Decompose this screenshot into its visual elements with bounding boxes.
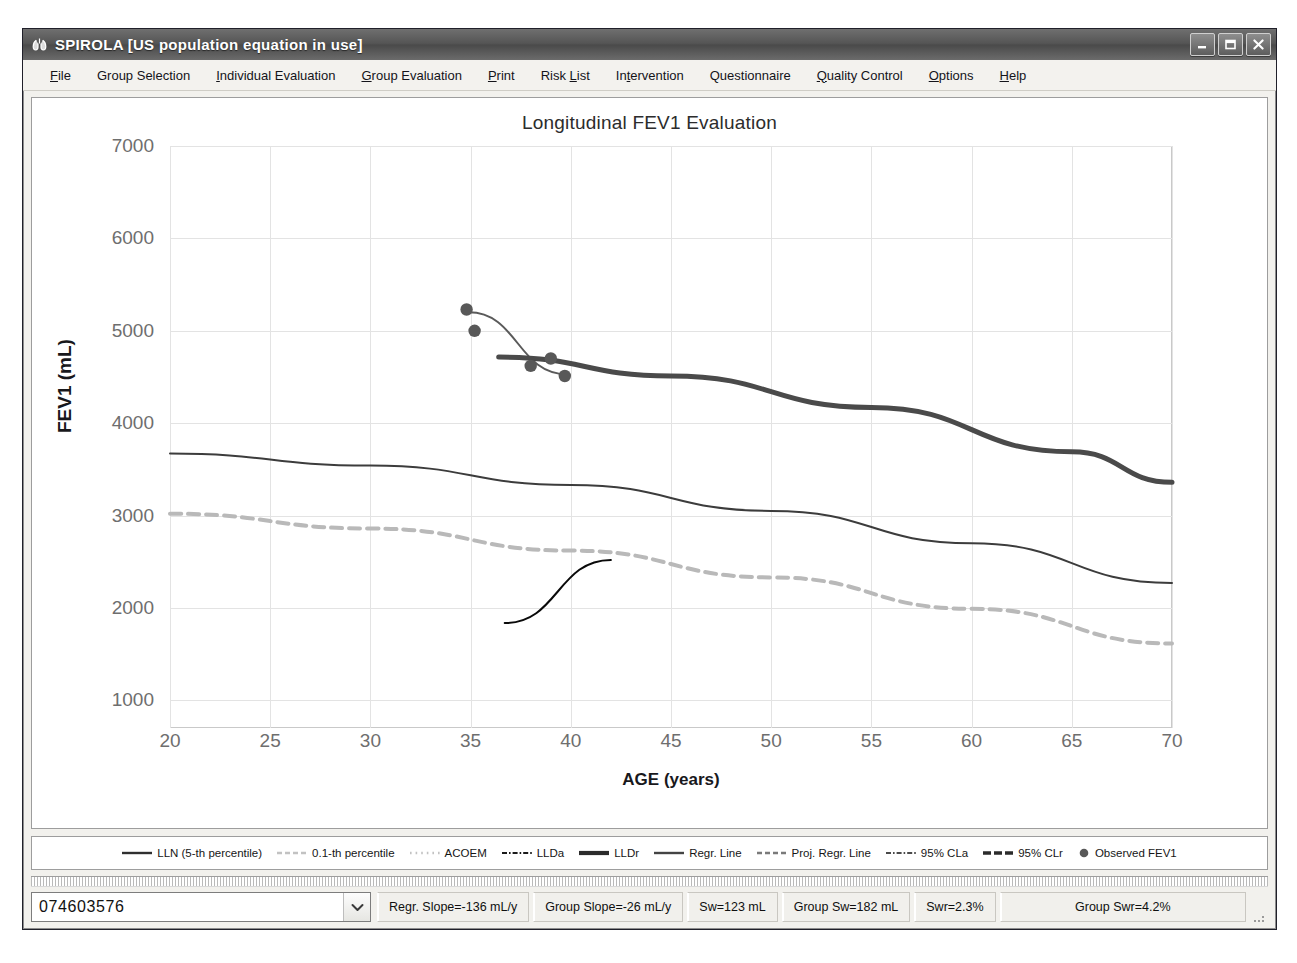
legend-item: 0.1-th percentile bbox=[277, 847, 394, 859]
legend-swatch bbox=[579, 847, 609, 859]
legend-swatch bbox=[122, 847, 152, 859]
status-cell: Group Sw=182 mL bbox=[782, 892, 911, 922]
chart-legend: LLN (5-th percentile)0.1-th percentileAC… bbox=[31, 836, 1268, 870]
data-point[interactable] bbox=[545, 352, 557, 364]
series-line bbox=[499, 357, 1172, 482]
x-tick-label: 50 bbox=[761, 730, 782, 752]
legend-item: Proj. Regr. Line bbox=[757, 847, 871, 859]
app-lung-icon bbox=[31, 37, 48, 53]
legend-label: 0.1-th percentile bbox=[312, 847, 394, 859]
status-cell: Sw=123 mL bbox=[687, 892, 777, 922]
x-tick-label: 45 bbox=[660, 730, 681, 752]
legend-swatch bbox=[1078, 847, 1090, 859]
y-tick-label: 2000 bbox=[112, 597, 154, 619]
spirola-window: SPIROLA [US population equation in use] bbox=[22, 28, 1277, 930]
x-tick-label: 20 bbox=[159, 730, 180, 752]
legend-swatch bbox=[757, 847, 787, 859]
status-metrics: Regr. Slope=-136 mL/yGroup Slope=-26 mL/… bbox=[377, 892, 1250, 922]
chart-panel: Longitudinal FEV1 Evaluation FEV1 (mL) 1… bbox=[31, 97, 1268, 829]
legend-item: LLN (5-th percentile) bbox=[122, 847, 262, 859]
window-controls bbox=[1190, 33, 1271, 56]
window-title: SPIROLA [US population equation in use] bbox=[55, 36, 363, 53]
plot-series-svg bbox=[170, 146, 1172, 728]
status-cell: Group Slope=-26 mL/y bbox=[533, 892, 683, 922]
status-bar: 074603576 Regr. Slope=-136 mL/yGroup Slo… bbox=[31, 892, 1268, 922]
legend-label: LLDr bbox=[614, 847, 639, 859]
legend-swatch bbox=[502, 847, 532, 859]
menu-bar: File Group Selection Individual Evaluati… bbox=[23, 60, 1276, 91]
legend-swatch bbox=[277, 847, 307, 859]
legend-swatch bbox=[886, 847, 916, 859]
legend-label: ACOEM bbox=[445, 847, 487, 859]
panel-divider bbox=[31, 876, 1268, 887]
data-point[interactable] bbox=[525, 360, 537, 372]
x-tick-label: 40 bbox=[560, 730, 581, 752]
menu-item-options[interactable]: Options bbox=[916, 64, 987, 87]
menu-item-group-evaluation[interactable]: Group Evaluation bbox=[348, 64, 474, 87]
status-cell: Regr. Slope=-136 mL/y bbox=[377, 892, 529, 922]
plot-area[interactable] bbox=[170, 146, 1172, 728]
data-point[interactable] bbox=[468, 325, 480, 337]
x-tick-label: 30 bbox=[360, 730, 381, 752]
x-tick-label: 35 bbox=[460, 730, 481, 752]
menu-item-quality-control[interactable]: Quality Control bbox=[804, 64, 916, 87]
y-tick-label: 3000 bbox=[112, 505, 154, 527]
data-point[interactable] bbox=[460, 303, 472, 315]
legend-label: Regr. Line bbox=[689, 847, 741, 859]
legend-item: 95% CLr bbox=[983, 847, 1063, 859]
x-tick-label: 65 bbox=[1061, 730, 1082, 752]
legend-item: Regr. Line bbox=[654, 847, 741, 859]
x-tick-label: 25 bbox=[260, 730, 281, 752]
legend-item: Observed FEV1 bbox=[1078, 847, 1177, 859]
menu-item-file[interactable]: File bbox=[37, 64, 84, 87]
maximize-button[interactable] bbox=[1218, 33, 1243, 56]
y-tick-label: 1000 bbox=[112, 689, 154, 711]
x-tick-label: 60 bbox=[961, 730, 982, 752]
menu-item-individual-evaluation[interactable]: Individual Evaluation bbox=[203, 64, 348, 87]
menu-item-print[interactable]: Print bbox=[475, 64, 528, 87]
menu-item-group-selection[interactable]: Group Selection bbox=[84, 64, 203, 87]
y-tick-label: 6000 bbox=[112, 227, 154, 249]
legend-label: 95% CLa bbox=[921, 847, 968, 859]
close-button[interactable] bbox=[1246, 33, 1271, 56]
menu-item-risk-list[interactable]: Risk List bbox=[528, 64, 603, 87]
legend-label: LLDa bbox=[537, 847, 565, 859]
legend-item: ACOEM bbox=[410, 847, 487, 859]
x-tick-label: 70 bbox=[1161, 730, 1182, 752]
legend-label: Proj. Regr. Line bbox=[792, 847, 871, 859]
legend-item: 95% CLa bbox=[886, 847, 968, 859]
y-tick-label: 7000 bbox=[112, 135, 154, 157]
subject-id-combobox[interactable]: 074603576 bbox=[31, 892, 371, 922]
chart-title: Longitudinal FEV1 Evaluation bbox=[32, 112, 1267, 134]
y-tick-label: 4000 bbox=[112, 412, 154, 434]
menu-item-intervention[interactable]: Intervention bbox=[603, 64, 697, 87]
x-axis-tick-labels: 2025303540455055606570 bbox=[170, 730, 1172, 760]
series-line bbox=[505, 560, 611, 623]
app-screenshot: SPIROLA [US population equation in use] bbox=[0, 0, 1297, 963]
legend-swatch bbox=[983, 847, 1013, 859]
y-tick-label: 5000 bbox=[112, 320, 154, 342]
legend-swatch bbox=[410, 847, 440, 859]
legend-swatch bbox=[654, 847, 684, 859]
resize-grip[interactable] bbox=[1252, 906, 1268, 922]
legend-label: LLN (5-th percentile) bbox=[157, 847, 262, 859]
menu-item-questionnaire[interactable]: Questionnaire bbox=[697, 64, 804, 87]
subject-id-value: 074603576 bbox=[32, 898, 343, 916]
y-axis-tick-labels: 1000200030004000500060007000 bbox=[32, 146, 164, 728]
legend-label: 95% CLr bbox=[1018, 847, 1063, 859]
status-cell: Group Swr=4.2% bbox=[1000, 892, 1246, 922]
window-title-bar[interactable]: SPIROLA [US population equation in use] bbox=[23, 29, 1276, 60]
legend-item: LLDa bbox=[502, 847, 565, 859]
series-line bbox=[170, 514, 1172, 644]
legend-item: LLDr bbox=[579, 847, 639, 859]
data-point[interactable] bbox=[559, 370, 571, 382]
legend-label: Observed FEV1 bbox=[1095, 847, 1177, 859]
x-tick-label: 55 bbox=[861, 730, 882, 752]
minimize-button[interactable] bbox=[1190, 33, 1215, 56]
series-line bbox=[469, 312, 567, 374]
status-cell: Swr=2.3% bbox=[914, 892, 995, 922]
grid-line-vertical bbox=[1172, 146, 1173, 728]
menu-item-help[interactable]: Help bbox=[987, 64, 1040, 87]
chevron-down-icon[interactable] bbox=[343, 893, 370, 921]
x-axis-title: AGE (years) bbox=[170, 770, 1172, 790]
